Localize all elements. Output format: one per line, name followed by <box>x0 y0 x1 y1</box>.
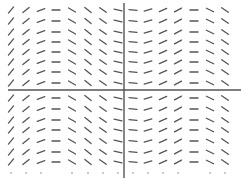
slope-segment <box>129 120 137 121</box>
slope-segment <box>85 8 91 13</box>
slope-segment <box>175 60 182 64</box>
slope-segment <box>159 81 166 84</box>
slope-segment <box>144 51 152 53</box>
slope-segment <box>69 128 76 132</box>
slope-segment <box>100 40 107 45</box>
slope-segment <box>37 119 45 122</box>
slope-segment <box>206 50 213 54</box>
edge-dot <box>71 172 73 174</box>
slope-segment <box>129 98 137 99</box>
slope-segment <box>114 31 122 33</box>
slope-segment <box>8 80 13 86</box>
slope-segment <box>159 160 166 163</box>
slope-segment <box>8 49 13 55</box>
edge-dots <box>10 172 226 174</box>
slope-segment <box>129 52 137 53</box>
slope-segment <box>85 139 91 144</box>
slope-segment <box>8 127 13 133</box>
slope-segment <box>206 81 213 85</box>
slope-segment <box>100 118 107 123</box>
slope-segment <box>23 8 29 13</box>
slope-segment <box>37 97 45 100</box>
slope-segment <box>37 161 45 164</box>
slope-segment <box>175 8 182 12</box>
slope-segment <box>175 70 182 74</box>
slope-segment <box>100 96 107 101</box>
slope-segment <box>85 96 91 101</box>
slope-segment <box>37 51 45 54</box>
edge-dot <box>25 172 27 174</box>
slope-segment <box>23 60 29 65</box>
slope-segment <box>23 96 29 101</box>
edge-dot <box>177 172 179 174</box>
slope-segment <box>69 60 76 64</box>
slope-segment <box>206 40 213 44</box>
slope-segment <box>85 50 91 55</box>
slope-segment <box>222 30 229 35</box>
slope-segment <box>222 40 229 45</box>
slope-segment <box>8 117 13 123</box>
slope-segment <box>222 107 229 112</box>
slope-segment <box>37 82 45 85</box>
slope-segment <box>222 70 229 75</box>
edge-dot <box>10 172 12 174</box>
slope-segment <box>85 70 91 75</box>
slope-segment <box>129 83 137 84</box>
edge-dot <box>209 172 211 174</box>
slope-segment <box>222 60 229 65</box>
slope-segment <box>175 107 182 111</box>
slope-segment <box>129 10 137 11</box>
slope-segment <box>85 118 91 123</box>
slope-segment <box>144 140 152 142</box>
slope-segment <box>37 20 45 23</box>
slope-segment <box>69 139 76 143</box>
slope-segment <box>175 30 182 34</box>
slope-segment <box>69 81 76 85</box>
slope-segment <box>23 50 29 55</box>
slope-segment <box>206 160 213 164</box>
slope-segment <box>159 118 166 121</box>
slope-segment <box>100 70 107 75</box>
slope-segment <box>114 129 122 131</box>
slope-segment <box>222 139 229 144</box>
slope-segment <box>8 95 13 101</box>
slope-segment <box>23 139 29 144</box>
slope-segment <box>69 8 76 12</box>
slope-segment <box>37 71 45 74</box>
slope-segment <box>23 30 29 35</box>
slope-segment <box>144 71 152 73</box>
slope-segment <box>144 119 152 121</box>
slope-segment <box>114 161 122 163</box>
slope-segments <box>8 7 228 165</box>
slope-segment <box>100 50 107 55</box>
slope-segment <box>159 8 166 11</box>
slope-segment <box>85 128 91 133</box>
slope-segment <box>69 50 76 54</box>
slope-segment <box>85 150 91 155</box>
slope-segment <box>85 107 91 112</box>
edge-dot <box>132 172 134 174</box>
edge-dot <box>147 172 149 174</box>
slope-segment <box>175 96 182 100</box>
slope-segment <box>8 138 13 144</box>
slope-segment <box>175 128 182 132</box>
slope-segment <box>100 30 107 35</box>
slope-segment <box>8 149 13 155</box>
slope-segment <box>23 118 29 123</box>
slope-segment <box>100 150 107 155</box>
slope-segment <box>114 119 122 121</box>
slope-segment <box>222 150 229 155</box>
slope-segment <box>85 60 91 65</box>
slope-segment <box>129 21 137 22</box>
slope-segment <box>69 19 76 23</box>
slope-segment <box>222 160 229 165</box>
slope-segment <box>37 9 45 12</box>
slope-segment <box>129 42 137 43</box>
slope-segment <box>85 81 91 86</box>
slope-segment <box>69 70 76 74</box>
slope-segment <box>159 128 166 131</box>
slope-segment <box>114 82 122 84</box>
slope-segment <box>206 70 213 74</box>
slope-segment <box>8 159 13 165</box>
slope-segment <box>144 61 152 63</box>
